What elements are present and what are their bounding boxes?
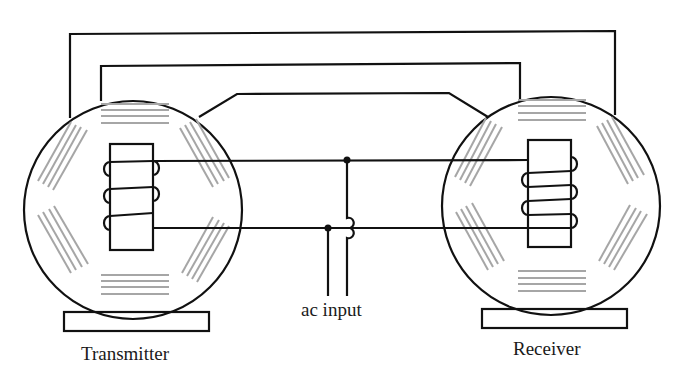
stator-wire-3 [199,93,488,117]
receiver-rotor-coil [522,157,577,228]
transmitter-label: Transmitter [81,343,169,365]
transmitter-stator-windings [38,104,229,294]
transmitter-rotor-coil [104,161,159,230]
ac-input-label: ac input [301,299,362,321]
transmitter-rotor [110,144,153,250]
receiver-base [482,309,627,328]
receiver-label: Receiver [513,338,581,360]
transmitter-base [64,312,209,331]
transmitter [24,101,242,331]
receiver-rotor [528,140,571,247]
stator-wire-2 [101,63,520,101]
rotor-wire-top [153,160,528,161]
synchro-diagram [0,0,685,379]
receiver-stator-windings [455,100,647,291]
receiver [442,97,660,328]
